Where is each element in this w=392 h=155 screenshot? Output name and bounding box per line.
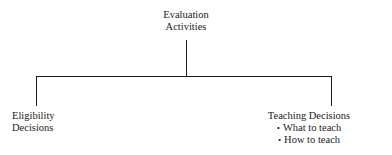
- teaching-decisions-bullet-list: •What to teach •How to teach: [236, 122, 382, 146]
- branch-node-teaching-decisions: Teaching Decisions •What to teach •How t…: [236, 110, 382, 146]
- eligibility-line-2: Decisions: [12, 122, 55, 134]
- connector-stem-vertical: [186, 40, 187, 77]
- root-node-line-2: Activities: [0, 21, 372, 33]
- eligibility-line-1: Eligibility: [12, 110, 55, 122]
- evaluation-activities-diagram: Evaluation Activities Eligibility Decisi…: [0, 0, 392, 155]
- bullet-icon: •: [278, 134, 281, 146]
- teaching-decisions-heading: Teaching Decisions: [236, 110, 382, 122]
- connector-horizontal-bar: [36, 76, 332, 77]
- teaching-bullet-label-1: What to teach: [283, 122, 341, 133]
- connector-left-branch-vertical: [36, 76, 37, 106]
- teaching-bullet-label-2: How to teach: [284, 134, 340, 145]
- branch-node-eligibility-decisions: Eligibility Decisions: [12, 110, 55, 133]
- list-item: •What to teach: [236, 122, 382, 134]
- root-node-evaluation-activities: Evaluation Activities: [0, 9, 372, 32]
- bullet-icon: •: [277, 122, 280, 134]
- list-item: •How to teach: [236, 134, 382, 146]
- connector-right-branch-vertical: [331, 76, 332, 106]
- root-node-line-1: Evaluation: [0, 9, 372, 21]
